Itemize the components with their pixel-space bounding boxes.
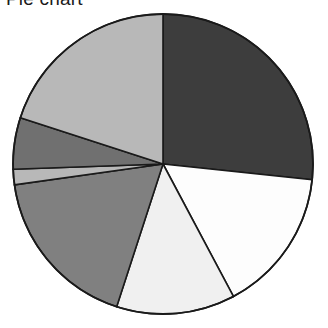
pie-chart-canvas — [0, 0, 328, 328]
pie-slice-1 — [163, 14, 313, 180]
pie-chart-figure: Pie chart — [0, 0, 328, 328]
pie-slice-group — [13, 14, 313, 314]
